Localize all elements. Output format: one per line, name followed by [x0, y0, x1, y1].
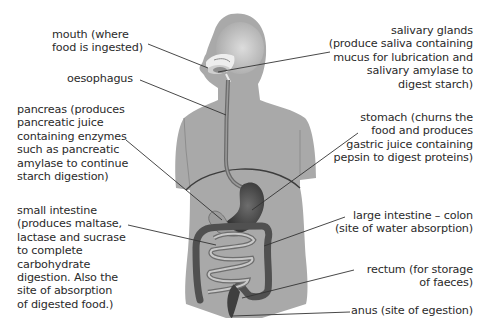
label-salivary-glands: salivary glands (produce saliva containi… [329, 24, 473, 91]
label-large-intestine: large intestine – colon (site of water a… [335, 209, 473, 236]
label-pancreas: pancreas (produces pancreatic juice cont… [17, 103, 128, 183]
label-oesophagus: oesophagus [67, 72, 133, 85]
label-rectum: rectum (for storage of faeces) [367, 263, 473, 290]
label-stomach: stomach (churns the food and produces ga… [334, 111, 473, 165]
label-mouth: mouth (where food is ingested) [52, 28, 143, 55]
label-small-intestine: small intestine (produces maltase, lacta… [17, 204, 126, 311]
label-anus: anus (site of egestion) [351, 304, 473, 317]
